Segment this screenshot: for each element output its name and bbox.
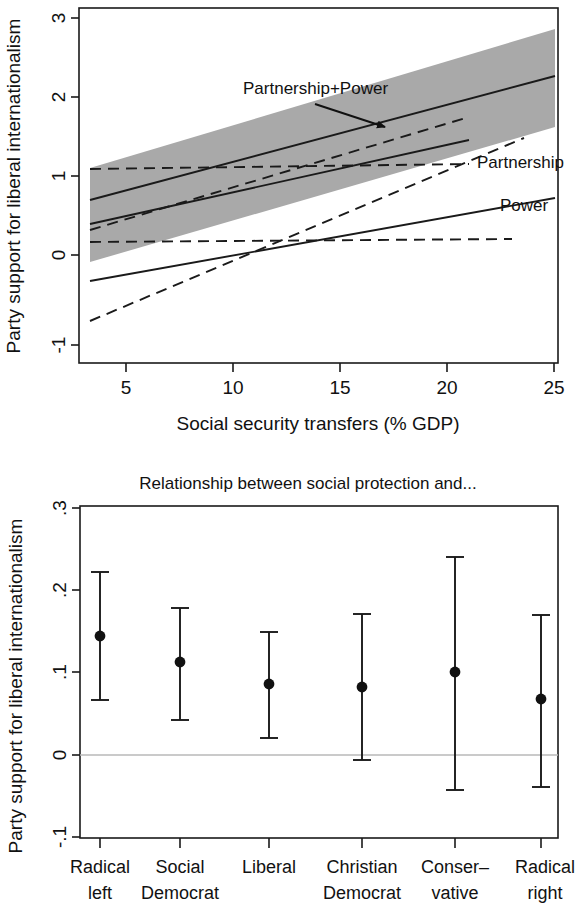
bottom-chart-panel: Relationship between social protection a… <box>0 456 588 912</box>
top-x-tick-label: 10 <box>222 377 243 398</box>
estimate-group-radical-left <box>91 572 109 700</box>
estimate-dot <box>175 657 186 668</box>
top-x-tick-label: 20 <box>436 377 457 398</box>
estimate-group-liberal <box>260 632 278 738</box>
category-label-line2: right <box>527 883 562 903</box>
category-label-line1: Christian <box>326 857 397 877</box>
bottom-category-labels: Radical left Social Democrat Liberal Chr… <box>70 857 575 903</box>
top-y-tick-label: 3 <box>48 13 69 24</box>
top-y-tick-label: 2 <box>48 92 69 103</box>
bottom-y-tick-label: .2 <box>49 582 70 598</box>
estimate-dot <box>264 679 275 690</box>
top-x-axis-title: Social security transfers (% GDP) <box>177 413 460 434</box>
bottom-y-tick-labels: .3 .2 .1 0 -.1 <box>49 500 70 848</box>
bottom-y-tick-label: .1 <box>49 664 70 680</box>
top-y-tick-label: 0 <box>48 250 69 261</box>
category-label-line1: Conser– <box>421 857 489 877</box>
top-y-ticks <box>71 18 79 345</box>
bottom-y-tick-label: .3 <box>49 500 70 516</box>
annotation-partnership-power-label: Partnership+Power <box>243 79 388 98</box>
annotation-power-label: Power <box>500 196 549 215</box>
estimate-dot <box>450 667 461 678</box>
estimate-dot <box>95 631 106 642</box>
top-chart-svg: Party support for liberal internationali… <box>0 0 588 456</box>
category-label-line1: Social <box>155 857 204 877</box>
category-label-line1: Radical <box>515 857 575 877</box>
bottom-y-tick-label: 0 <box>49 750 70 761</box>
figure-page: Party support for liberal internationali… <box>0 0 588 912</box>
top-x-tick-label: 15 <box>329 377 350 398</box>
top-y-tick-label: -1 <box>48 337 69 354</box>
top-x-tick-label: 25 <box>543 377 564 398</box>
category-label-line2: vative <box>431 883 478 903</box>
category-label-line2: Democrat <box>141 883 219 903</box>
top-x-tick-labels: 5 10 15 20 25 <box>121 377 565 398</box>
top-x-ticks <box>126 363 554 372</box>
category-label-line2: left <box>88 883 112 903</box>
bottom-y-axis-title: Party support for liberal internationali… <box>5 519 26 854</box>
bottom-chart-svg: Relationship between social protection a… <box>0 456 588 912</box>
estimate-dot <box>357 682 368 693</box>
estimate-group-christian-democrat <box>353 614 371 760</box>
bottom-chart-title: Relationship between social protection a… <box>139 474 476 493</box>
bottom-x-ticks <box>100 838 541 848</box>
estimate-dot <box>536 694 547 705</box>
top-x-tick-label: 5 <box>121 377 132 398</box>
top-y-tick-label: 1 <box>48 171 69 182</box>
estimate-group-social-democrat <box>171 608 189 720</box>
top-y-tick-labels: 3 2 1 0 -1 <box>48 13 69 354</box>
top-chart-panel: Party support for liberal internationali… <box>0 0 588 456</box>
category-label-line1: Radical <box>70 857 130 877</box>
bottom-plot-frame <box>80 506 558 838</box>
annotation-partnership-label: Partnership <box>477 153 564 172</box>
estimate-group-radical-right <box>532 615 550 787</box>
category-label-line1: Liberal <box>242 857 296 877</box>
top-y-axis-title: Party support for liberal internationali… <box>3 19 24 354</box>
ci-band-partnership-power <box>90 29 555 262</box>
bottom-y-tick-label: -.1 <box>49 826 70 848</box>
bottom-y-ticks <box>72 508 80 837</box>
category-label-line2: Democrat <box>323 883 401 903</box>
